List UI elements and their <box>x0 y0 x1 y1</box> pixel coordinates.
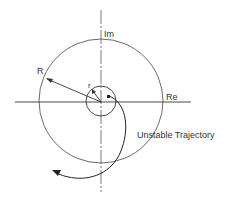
im-axis-label: Im <box>104 30 114 39</box>
outer-radius-arrowhead <box>46 78 53 83</box>
trajectory-label: Unstable Trajectory <box>137 131 215 140</box>
trajectory-arrowhead <box>52 170 61 176</box>
inner-radius-arrowhead <box>92 89 96 94</box>
outer-radius-label: R <box>37 67 44 76</box>
unstable-trajectory <box>55 96 126 178</box>
re-axis-label: Re <box>166 93 178 102</box>
inner-radius-label: r <box>88 82 91 90</box>
